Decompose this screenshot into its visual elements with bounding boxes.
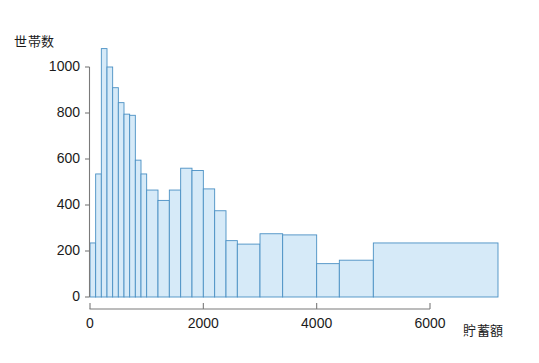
histogram-bar bbox=[373, 243, 498, 297]
histogram-bar bbox=[237, 244, 260, 297]
x-axis-tick-label: 2000 bbox=[163, 315, 243, 331]
histogram-bar bbox=[283, 235, 317, 297]
x-axis-tick-label: 6000 bbox=[390, 315, 470, 331]
y-axis-tick-label: 400 bbox=[30, 196, 80, 212]
histogram-bar bbox=[317, 264, 340, 297]
histogram-bar bbox=[141, 174, 147, 297]
histogram-bar bbox=[192, 171, 203, 298]
histogram-bar bbox=[260, 234, 283, 297]
histogram-bar bbox=[147, 190, 158, 297]
histogram-bar bbox=[118, 103, 124, 297]
plot-area bbox=[0, 0, 539, 363]
histogram-bar bbox=[107, 67, 113, 297]
histogram-chart: 世帯数 貯蓄額 02004006008001000 0200040006000 bbox=[0, 0, 539, 363]
histogram-bar bbox=[169, 190, 180, 297]
histogram-bar bbox=[339, 260, 373, 297]
y-axis-tick-label: 0 bbox=[30, 288, 80, 304]
histogram-bar bbox=[130, 115, 136, 297]
histogram-bar bbox=[158, 200, 169, 297]
histogram-bar bbox=[124, 114, 130, 297]
y-axis-tick-label: 600 bbox=[30, 150, 80, 166]
histogram-bar bbox=[113, 88, 119, 297]
x-axis-tick-label: 4000 bbox=[277, 315, 357, 331]
y-axis-tick-label: 200 bbox=[30, 242, 80, 258]
histogram-bar bbox=[101, 49, 107, 297]
y-axis-tick-label: 1000 bbox=[30, 58, 80, 74]
histogram-bar bbox=[96, 174, 102, 297]
histogram-bar bbox=[215, 211, 226, 297]
x-axis-tick-label: 0 bbox=[50, 315, 130, 331]
histogram-bar bbox=[181, 168, 192, 297]
y-axis-tick-label: 800 bbox=[30, 104, 80, 120]
bars-group bbox=[90, 49, 498, 297]
histogram-bar bbox=[135, 160, 141, 297]
histogram-bar bbox=[90, 243, 96, 297]
histogram-bar bbox=[203, 189, 214, 297]
histogram-bar bbox=[226, 241, 237, 297]
